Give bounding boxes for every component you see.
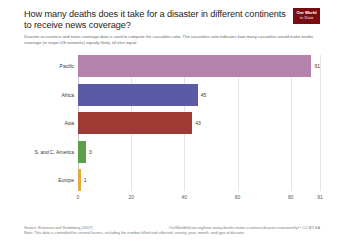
chart-container: How many deaths does it take for a disas… (24, 8, 320, 236)
plot-area: Pacific91Africa45Asia43S. and C. America… (78, 55, 320, 191)
x-axis: 02040608091 (78, 193, 320, 205)
chart-subtitle: Disaster occurrence and news coverage da… (24, 34, 314, 46)
bar-chart: Pacific91Africa45Asia43S. and C. America… (24, 55, 320, 205)
bar[interactable] (78, 112, 192, 134)
chart-page: How many deaths does it take for a disas… (0, 0, 339, 244)
x-axis-tick: 60 (235, 194, 241, 200)
bar-value-label: 45 (201, 92, 207, 98)
bar-row[interactable]: S. and C. America3 (78, 141, 320, 163)
x-axis-tick: 80 (288, 194, 294, 200)
bar-row[interactable]: Asia43 (78, 112, 320, 134)
page-title: How many deaths does it take for a disas… (24, 8, 286, 32)
bar-category-label: Africa (22, 92, 74, 98)
x-axis-tick: 40 (182, 194, 188, 200)
bar-value-label: 1 (84, 177, 87, 183)
our-world-in-data-logo[interactable]: Our World in Data (293, 8, 320, 24)
x-axis-tick: 20 (128, 194, 134, 200)
bar[interactable] (78, 84, 198, 106)
bar[interactable] (78, 141, 86, 163)
bar-value-label: 91 (314, 63, 320, 69)
footer-note: Note: This data is controlled for severa… (24, 230, 320, 235)
bar[interactable] (78, 55, 311, 77)
bar-row[interactable]: Pacific91 (78, 55, 320, 77)
bar-category-label: S. and C. America (22, 149, 74, 155)
x-axis-tick: 91 (317, 194, 323, 200)
bar[interactable] (78, 169, 81, 191)
bar-value-label: 3 (89, 149, 92, 155)
chart-header: How many deaths does it take for a disas… (24, 8, 320, 50)
gridline (320, 55, 321, 191)
bar-category-label: Europe (22, 177, 74, 183)
bar-category-label: Pacific (22, 63, 74, 69)
bar-value-label: 43 (195, 120, 201, 126)
bar-category-label: Asia (22, 120, 74, 126)
x-axis-tick: 0 (77, 194, 80, 200)
chart-footer: Source: Eisensee and Strömberg (2007) Ou… (24, 225, 320, 235)
bar-rows: Pacific91Africa45Asia43S. and C. America… (78, 55, 320, 191)
logo-line-2: in Data (293, 15, 320, 20)
bar-row[interactable]: Africa45 (78, 84, 320, 106)
bar-row[interactable]: Europe1 (78, 169, 320, 191)
